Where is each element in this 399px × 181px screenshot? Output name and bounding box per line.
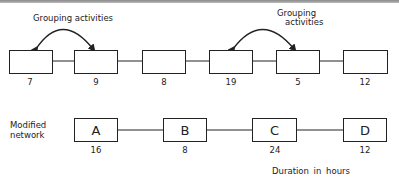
activity-box-b: B: [163, 118, 207, 142]
activity-name-b: B: [181, 123, 190, 138]
activity-box-2: [74, 50, 118, 74]
activity-box-6: [343, 50, 388, 74]
activity-box-1: [9, 50, 53, 74]
duration-c: 24: [260, 145, 290, 155]
duration-b: 8: [170, 145, 200, 155]
duration-1: 7: [15, 77, 45, 87]
activity-box-4: [209, 50, 253, 74]
duration-5: 5: [283, 77, 313, 87]
activity-box-a: A: [74, 118, 118, 142]
activity-box-5: [276, 50, 320, 74]
activity-name-c: C: [270, 123, 279, 138]
duration-2: 9: [81, 77, 111, 87]
duration-4: 19: [216, 77, 246, 87]
modified-network-label-line1: Modified: [10, 120, 46, 130]
duration-a: 16: [81, 145, 111, 155]
duration-6: 12: [350, 77, 380, 87]
modified-network-label-line2: network: [10, 130, 45, 140]
activity-box-3: [142, 50, 186, 74]
duration-d: 12: [350, 145, 380, 155]
activity-name-d: D: [360, 123, 370, 138]
activity-box-c: C: [252, 118, 297, 142]
units-label: Duration in hours: [272, 166, 350, 176]
activity-name-a: A: [92, 123, 101, 138]
grouping-label-1: Grouping activities: [33, 13, 113, 23]
activity-box-d: D: [343, 118, 387, 142]
grouping-label-2-line2: activities: [285, 17, 323, 27]
duration-3: 8: [149, 77, 179, 87]
